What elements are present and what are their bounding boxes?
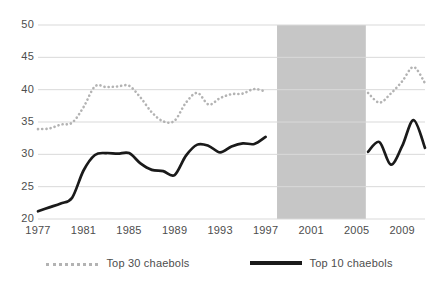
series-line bbox=[38, 85, 266, 129]
x-tick-label: 1977 bbox=[18, 224, 58, 236]
x-tick-label: 2009 bbox=[382, 224, 422, 236]
legend-item-top-10: Top 10 chaebols bbox=[250, 257, 393, 269]
chart-container: 50 45 40 35 30 25 20 1977 1981 1985 1989… bbox=[0, 0, 439, 284]
chart-plot-svg bbox=[38, 25, 425, 219]
gridlines-group bbox=[38, 25, 425, 219]
y-tick-label: 45 bbox=[4, 51, 34, 62]
y-axis: 50 45 40 35 30 25 20 bbox=[0, 25, 34, 219]
chart-legend: Top 30 chaebols Top 10 chaebols bbox=[0, 252, 439, 274]
x-tick-label: 1997 bbox=[246, 224, 286, 236]
plot-area bbox=[38, 25, 425, 219]
x-tick-label: 2001 bbox=[291, 224, 331, 236]
y-tick-label: 25 bbox=[4, 181, 34, 192]
solid-line-swatch-icon bbox=[250, 258, 302, 268]
series-line bbox=[368, 120, 425, 165]
y-tick-label: 40 bbox=[4, 84, 34, 95]
x-tick-label: 1985 bbox=[109, 224, 149, 236]
dotted-line-swatch-icon bbox=[46, 258, 98, 268]
x-axis: 1977 1981 1985 1989 1993 1997 2001 2005 … bbox=[38, 224, 425, 242]
series-group bbox=[38, 67, 425, 211]
x-tick-label: 1989 bbox=[155, 224, 195, 236]
legend-label: Top 10 chaebols bbox=[310, 257, 393, 269]
x-tick-label: 1981 bbox=[64, 224, 104, 236]
series-line bbox=[38, 137, 266, 211]
y-tick-label: 20 bbox=[4, 213, 34, 224]
y-tick-label: 30 bbox=[4, 148, 34, 159]
series-line bbox=[368, 67, 425, 103]
x-tick-label: 2005 bbox=[337, 224, 377, 236]
y-tick-label: 35 bbox=[4, 116, 34, 127]
legend-item-top-30: Top 30 chaebols bbox=[46, 257, 189, 269]
legend-label: Top 30 chaebols bbox=[106, 257, 189, 269]
y-tick-label: 50 bbox=[4, 19, 34, 30]
x-tick-label: 1993 bbox=[200, 224, 240, 236]
